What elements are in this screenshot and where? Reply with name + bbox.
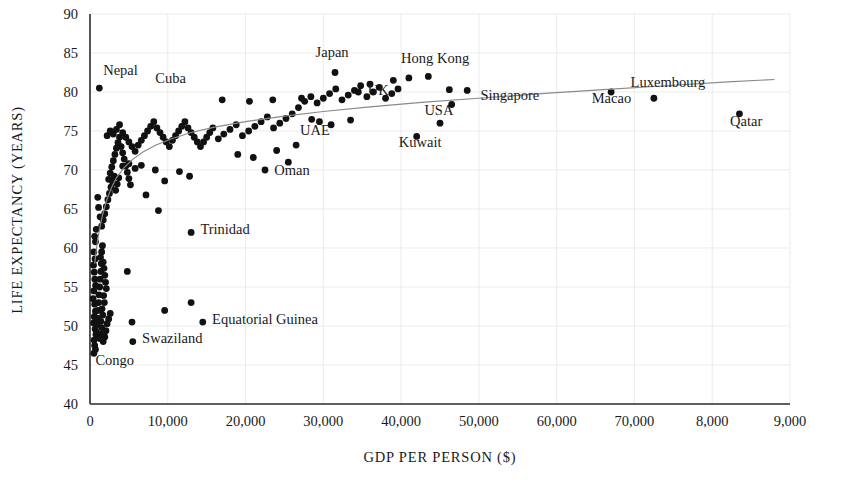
data-point xyxy=(101,265,108,272)
y-tick-label: 85 xyxy=(64,45,79,61)
point-label-qatar: Qatar xyxy=(730,113,762,129)
data-point xyxy=(102,279,109,286)
data-point xyxy=(101,334,108,341)
data-point xyxy=(262,167,269,174)
x-tick-label: 9,000 xyxy=(774,413,807,429)
y-tick-label: 55 xyxy=(64,279,79,295)
data-point xyxy=(188,229,195,236)
data-point xyxy=(320,95,327,102)
data-point xyxy=(239,132,246,139)
data-point xyxy=(161,178,168,185)
data-point xyxy=(388,90,395,97)
data-point xyxy=(188,299,195,306)
x-tick-label: 30,000 xyxy=(303,413,343,429)
data-point xyxy=(250,154,257,161)
data-point xyxy=(108,163,115,170)
point-label-uae: UAE xyxy=(300,122,330,138)
data-point xyxy=(326,90,333,97)
data-point xyxy=(245,128,252,135)
data-point xyxy=(357,82,364,89)
y-tick-label: 70 xyxy=(64,162,79,178)
data-point xyxy=(111,151,118,158)
point-label-swaziland: Swaziland xyxy=(142,330,203,346)
point-label-nepal: Nepal xyxy=(103,62,138,78)
data-point xyxy=(446,86,453,93)
data-point xyxy=(129,319,136,326)
data-point xyxy=(118,143,125,150)
data-point xyxy=(91,269,98,276)
data-point xyxy=(293,142,300,149)
x-tick-label: 50,000 xyxy=(459,413,499,429)
data-point xyxy=(298,95,305,102)
data-point xyxy=(220,131,227,138)
data-point xyxy=(132,165,139,172)
data-point xyxy=(395,85,402,92)
plot-canvas: 010,00020,00030,00040,00050,00060,00070,… xyxy=(0,0,845,496)
data-point xyxy=(276,120,283,127)
data-point xyxy=(186,173,193,180)
point-label-kuwait: Kuwait xyxy=(399,134,442,150)
y-tick-label: 60 xyxy=(64,240,79,256)
y-axis-tick-labels: 4045505560657075808590 xyxy=(64,6,79,412)
data-point xyxy=(90,262,97,269)
data-point xyxy=(150,118,157,125)
data-point xyxy=(101,272,108,279)
x-tick-label: 10,000 xyxy=(148,413,188,429)
data-point xyxy=(295,104,302,111)
data-point xyxy=(347,117,354,124)
data-point xyxy=(119,149,126,156)
point-label-usa: USA xyxy=(424,102,454,118)
data-point xyxy=(332,69,339,76)
data-point xyxy=(227,126,234,133)
data-point xyxy=(273,147,280,154)
data-point xyxy=(96,284,103,291)
data-point xyxy=(96,85,103,92)
data-point xyxy=(464,87,471,94)
data-point xyxy=(98,249,105,256)
data-point xyxy=(101,299,108,306)
data-point xyxy=(181,118,188,125)
data-point xyxy=(425,73,432,80)
scatter-chart-figure: 010,00020,00030,00040,00050,00060,00070,… xyxy=(0,0,845,496)
data-point xyxy=(143,192,150,199)
data-point xyxy=(99,242,106,249)
data-point xyxy=(97,318,104,325)
data-point xyxy=(234,151,241,158)
x-tick-label: 40,000 xyxy=(381,413,421,429)
x-tick-label: 20,000 xyxy=(226,413,266,429)
data-point xyxy=(390,77,397,84)
x-tick-label: 60,000 xyxy=(537,413,577,429)
point-label-equatorial-guinea: Equatorial Guinea xyxy=(212,311,318,327)
data-point xyxy=(100,292,107,299)
data-point xyxy=(215,135,222,142)
data-point xyxy=(161,307,168,314)
data-point xyxy=(99,305,106,312)
data-point xyxy=(155,207,162,214)
data-point xyxy=(124,268,131,275)
data-point xyxy=(127,181,134,188)
point-label-trinidad: Trinidad xyxy=(200,221,250,237)
point-label-oman: Oman xyxy=(274,162,310,178)
data-point xyxy=(110,157,117,164)
data-point xyxy=(103,285,110,292)
data-point xyxy=(332,85,339,92)
data-point xyxy=(107,310,114,317)
data-point xyxy=(132,148,139,155)
point-label-hong-kong: Hong Kong xyxy=(401,50,469,66)
data-point xyxy=(246,98,253,105)
x-axis-tick-labels: 010,00020,00030,00040,00050,00060,00070,… xyxy=(86,413,806,429)
y-tick-label: 80 xyxy=(64,84,79,100)
data-point xyxy=(166,143,173,150)
data-point xyxy=(95,204,102,211)
data-point xyxy=(270,124,277,131)
point-label-singapore: Singapore xyxy=(480,87,539,103)
x-axis-title: GDP PER PERSON ($) xyxy=(364,449,517,466)
data-point xyxy=(105,176,112,183)
data-point xyxy=(124,169,131,176)
data-point xyxy=(138,162,145,169)
data-point xyxy=(405,75,412,82)
data-point xyxy=(107,170,114,177)
y-tick-label: 65 xyxy=(64,201,79,217)
data-point xyxy=(269,96,276,103)
data-point xyxy=(314,100,321,107)
